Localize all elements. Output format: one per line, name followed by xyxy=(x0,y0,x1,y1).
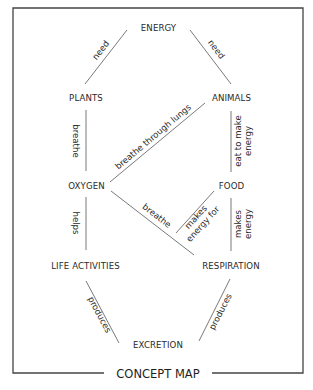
label-animals-eat-to-make-energy-line1: eat to make xyxy=(233,115,243,167)
label-plants-breathe-oxygen: breathe xyxy=(71,124,81,157)
node-plants: PLANTS xyxy=(69,93,103,103)
frame-border xyxy=(13,8,303,373)
node-excretion: EXCRETION xyxy=(133,340,183,350)
concept-map-diagram: CONCEPT MAP ENERGY PLANTS ANIMALS OXYGEN… xyxy=(0,0,313,390)
edge-energy-animals xyxy=(190,30,231,84)
label-oxygen-breathe-respiration: breathe xyxy=(141,201,174,229)
frame xyxy=(13,8,303,373)
node-respiration: RESPIRATION xyxy=(202,261,259,271)
label-plants-need-energy: need xyxy=(90,39,111,62)
node-animals: ANIMALS xyxy=(212,93,251,103)
edge-animals-oxygen xyxy=(110,103,205,182)
label-animals-breathe-through-lungs: breathe through lungs xyxy=(113,102,193,172)
edges xyxy=(85,30,231,343)
node-life-activities: LIFE ACTIVITIES xyxy=(51,261,120,271)
label-respiration-makes-energy-line2: energy xyxy=(243,209,253,239)
node-energy: ENERGY xyxy=(141,23,177,33)
node-food: FOOD xyxy=(219,181,245,191)
label-animals-need-energy: need xyxy=(206,38,227,61)
label-life-produces-excretion: produces xyxy=(86,295,114,335)
label-oxygen-helps-life: helps xyxy=(71,211,81,235)
edge-oxygen-respiration xyxy=(111,191,194,255)
label-respiration-makes-energy-line1: makes xyxy=(233,209,243,238)
node-oxygen: OXYGEN xyxy=(68,181,104,191)
diagram-title: CONCEPT MAP xyxy=(116,367,199,381)
label-animals-eat-to-make-energy-line2: energy xyxy=(243,126,253,156)
